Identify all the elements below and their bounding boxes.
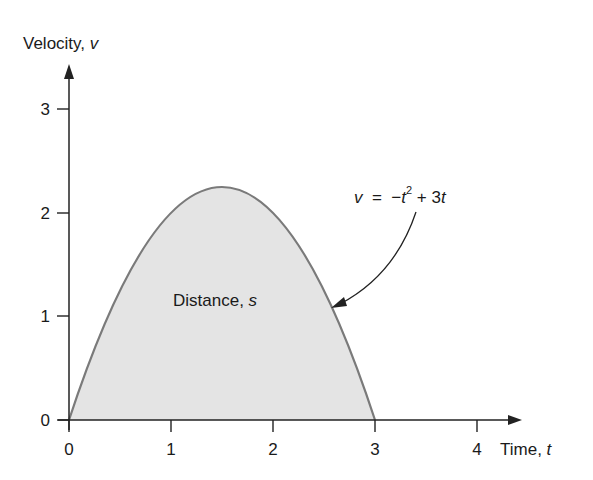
annotation-arrowhead-icon xyxy=(331,297,347,308)
annotation-arrow xyxy=(340,212,416,304)
y-tick-label: 1 xyxy=(41,308,50,325)
x-tick-label: 0 xyxy=(64,441,73,458)
distance-label: Distance, s xyxy=(173,292,257,309)
x-tick-label: 1 xyxy=(166,441,175,458)
x-tick-label: 3 xyxy=(370,441,379,458)
x-tick-label: 2 xyxy=(268,441,277,458)
equation-label: v = −t2 + 3t xyxy=(354,189,446,206)
x-axis-label: Time, t xyxy=(500,441,551,458)
chart-canvas xyxy=(0,0,593,480)
y-tick-label: 0 xyxy=(41,412,50,429)
y-ticks xyxy=(57,109,69,420)
x-ticks xyxy=(69,420,477,432)
y-tick-label: 3 xyxy=(41,101,50,118)
x-tick-label: 4 xyxy=(472,441,481,458)
x-axis-arrow-icon xyxy=(508,415,522,425)
y-axis-arrow-icon xyxy=(64,64,74,79)
y-axis-label: Velocity, v xyxy=(23,35,98,52)
y-tick-label: 2 xyxy=(41,205,50,222)
